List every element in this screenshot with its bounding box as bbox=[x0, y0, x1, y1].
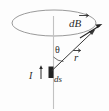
figure-container: dB r θ I ds bbox=[0, 0, 109, 111]
theta-angle-label: θ bbox=[55, 44, 60, 55]
dB-vector-label: dB bbox=[69, 17, 82, 29]
ds-label: ds bbox=[54, 74, 63, 84]
r-vector-label: r bbox=[74, 51, 79, 63]
current-label: I bbox=[28, 70, 33, 81]
biot-savart-diagram-svg: dB r θ I ds bbox=[0, 0, 109, 111]
